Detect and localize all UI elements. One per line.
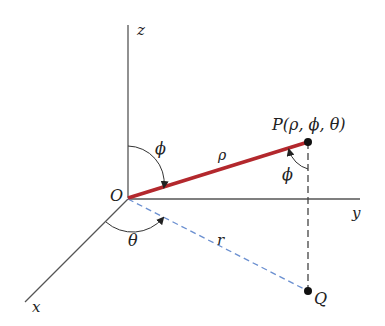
phi-label-origin: ϕ: [155, 139, 166, 158]
theta-label: θ: [128, 231, 138, 250]
origin-label: O: [110, 186, 123, 205]
x-axis-label: x: [32, 298, 41, 316]
point-p-label: P(ρ, ϕ, θ): [271, 115, 346, 134]
x-axis: [25, 199, 128, 302]
spherical-coordinates-diagram: z y x O P(ρ, ϕ, θ) Q ρ r ϕ ϕ θ: [0, 0, 385, 326]
r-label: r: [217, 231, 225, 249]
rho-label: ρ: [217, 147, 227, 163]
theta-arc: [106, 218, 163, 232]
y-axis-label: y: [351, 204, 361, 222]
z-axis-label: z: [136, 21, 145, 39]
phi-label-p: ϕ: [282, 165, 293, 184]
point-q-dot: [304, 287, 312, 295]
point-p-dot: [304, 138, 312, 146]
point-q-label: Q: [314, 289, 327, 308]
